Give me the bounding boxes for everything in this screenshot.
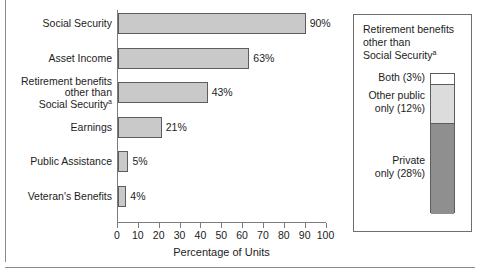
stacked-bar xyxy=(430,73,455,213)
bar-category-label-line: Veteran's Benefits xyxy=(28,190,112,202)
panel-title-line-1: Retirement benefits xyxy=(363,23,454,35)
bar-row[interactable]: Earnings21% xyxy=(0,116,340,140)
breakdown-panel-title: Retirement benefits other than Social Se… xyxy=(363,23,454,62)
bar-rect[interactable] xyxy=(118,186,126,207)
stack-segment[interactable] xyxy=(431,84,454,123)
footnote-marker: a xyxy=(108,97,112,104)
x-tick-50 xyxy=(221,223,222,228)
bar-row[interactable]: Social Security90% xyxy=(0,12,340,36)
bar-row[interactable]: Veteran's Benefits4% xyxy=(0,185,340,209)
bar-category-label-line: Social Security xyxy=(43,17,112,29)
stack-segment-label-line: only (28%) xyxy=(375,167,425,179)
bar-category-label: Social Security xyxy=(43,18,112,30)
breakdown-panel: Retirement benefits other than Social Se… xyxy=(353,14,472,232)
x-tick-80 xyxy=(284,223,285,228)
horizontal-bar-chart: 0102030405060708090100 Percentage of Uni… xyxy=(0,0,340,276)
bar-row[interactable]: Public Assistance5% xyxy=(0,150,340,174)
x-tick-0 xyxy=(117,223,118,228)
x-tick-label-40: 40 xyxy=(195,229,207,241)
stack-segment[interactable] xyxy=(431,74,454,84)
bar-category-label: Asset Income xyxy=(48,53,112,65)
bar-category-label-line: Asset Income xyxy=(48,52,112,64)
bar-rect[interactable] xyxy=(118,117,162,138)
bar-value-label: 21% xyxy=(166,121,187,133)
x-tick-label-100: 100 xyxy=(317,229,335,241)
bar-value-label: 63% xyxy=(253,52,274,64)
x-tick-20 xyxy=(159,223,160,228)
x-tick-60 xyxy=(242,223,243,228)
stack-segment-label-line: Private xyxy=(392,154,425,166)
x-tick-label-0: 0 xyxy=(114,229,120,241)
x-tick-label-30: 30 xyxy=(174,229,186,241)
bar-category-label-line: other than xyxy=(65,86,112,98)
bar-value-label: 43% xyxy=(212,86,233,98)
bar-category-label: Public Assistance xyxy=(30,156,112,168)
x-tick-label-70: 70 xyxy=(257,229,269,241)
x-tick-70 xyxy=(263,223,264,228)
x-tick-40 xyxy=(200,223,201,228)
panel-title-line-3: Social Security xyxy=(363,49,432,61)
x-tick-10 xyxy=(138,223,139,228)
x-tick-label-20: 20 xyxy=(153,229,165,241)
bar-category-label: Retirement benefitsother thanSocial Secu… xyxy=(21,76,112,111)
bar-value-label: 4% xyxy=(130,190,145,202)
x-tick-90 xyxy=(305,223,306,228)
stack-segment[interactable] xyxy=(431,123,454,214)
bar-rect[interactable] xyxy=(118,48,249,69)
figure-container: 0102030405060708090100 Percentage of Uni… xyxy=(0,0,481,276)
panel-title-footnote-marker: a xyxy=(432,49,436,56)
bar-category-label: Earnings xyxy=(71,122,112,134)
bar-value-label: 5% xyxy=(132,155,147,167)
bar-category-label: Veteran's Benefits xyxy=(28,191,112,203)
x-tick-label-90: 90 xyxy=(299,229,311,241)
x-tick-label-60: 60 xyxy=(236,229,248,241)
x-axis-title: Percentage of Units xyxy=(117,246,326,258)
x-tick-100 xyxy=(326,223,327,228)
stack-segment-label: Both (3%) xyxy=(378,71,425,84)
stack-segment-label-line: only (12%) xyxy=(375,102,425,114)
bar-value-label: 90% xyxy=(310,17,331,29)
bar-rect[interactable] xyxy=(118,151,128,172)
bar-category-label-line: Social Security xyxy=(39,98,108,110)
bar-category-label-line: Earnings xyxy=(71,121,112,133)
stack-segment-label: Privateonly (28%) xyxy=(375,154,425,180)
bar-row[interactable]: Retirement benefitsother thanSocial Secu… xyxy=(0,81,340,105)
x-tick-30 xyxy=(180,223,181,228)
bar-rect[interactable] xyxy=(118,13,306,34)
panel-title-line-2: other than xyxy=(363,36,410,48)
x-tick-label-50: 50 xyxy=(215,229,227,241)
bar-rect[interactable] xyxy=(118,82,208,103)
x-tick-label-10: 10 xyxy=(132,229,144,241)
stack-segment-label: Other publiconly (12%) xyxy=(368,89,425,115)
stack-segment-label-line: Other public xyxy=(368,89,425,101)
stack-segment-label-line: Both (3%) xyxy=(378,71,425,83)
bar-row[interactable]: Asset Income63% xyxy=(0,47,340,71)
bar-category-label-line: Public Assistance xyxy=(30,155,112,167)
x-tick-label-80: 80 xyxy=(278,229,290,241)
bar-category-label-line: Retirement benefits xyxy=(21,75,112,87)
